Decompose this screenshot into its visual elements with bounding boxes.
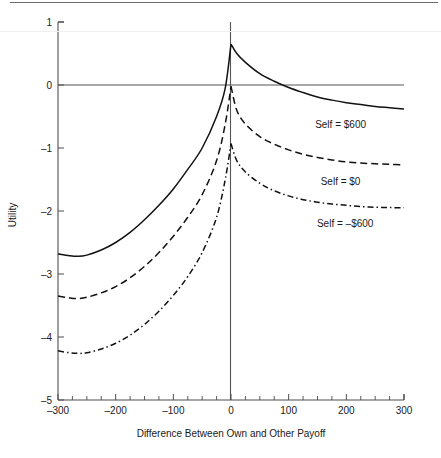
- series-label-self-0: Self = $0: [321, 176, 361, 187]
- x-tick-label--200: –200: [105, 405, 128, 416]
- y-axis-title: Utility: [7, 203, 18, 227]
- series-inline-labels: Self = $600Self = $0Self = –$600: [315, 119, 374, 230]
- y-tick-label--1: –1: [41, 143, 53, 154]
- x-tick-label-200: 200: [338, 405, 355, 416]
- x-axis-ticks: [58, 394, 404, 400]
- y-tick-label-1: 1: [46, 17, 52, 28]
- x-tick-label-300: 300: [396, 405, 413, 416]
- scan-artifact-faint-line: [0, 31, 441, 32]
- y-tick-label--4: –4: [41, 332, 53, 343]
- y-axis-tick-labels: 10–1–2–3–4–5: [41, 17, 53, 406]
- series-label-self-neg600: Self = –$600: [317, 218, 374, 229]
- scan-artifact-line: [10, 2, 438, 3]
- x-axis-title: Difference Between Own and Other Payoff: [137, 428, 326, 439]
- x-tick-label--100: –100: [162, 405, 185, 416]
- y-tick-label--3: –3: [41, 269, 53, 280]
- series-label-self-600: Self = $600: [315, 119, 366, 130]
- y-axis-ticks: [58, 22, 64, 400]
- y-tick-label--2: –2: [41, 206, 53, 217]
- x-tick-label-100: 100: [280, 405, 297, 416]
- y-tick-label--5: –5: [41, 395, 53, 406]
- chart-svg: 10–1–2–3–4–5 –300–200–1000100200300 Self…: [0, 0, 441, 458]
- x-tick-label--300: –300: [47, 405, 70, 416]
- y-tick-label-0: 0: [46, 80, 52, 91]
- utility-chart-figure: 10–1–2–3–4–5 –300–200–1000100200300 Self…: [0, 0, 441, 458]
- x-tick-label-0: 0: [228, 405, 234, 416]
- x-axis-tick-labels: –300–200–1000100200300: [47, 405, 413, 416]
